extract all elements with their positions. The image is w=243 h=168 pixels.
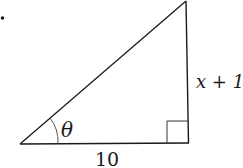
bullet-dot	[1, 16, 5, 20]
angle-label-theta: θ	[61, 118, 73, 142]
base-side	[20, 143, 189, 144]
base-label: 10	[95, 148, 119, 168]
angle-arc	[50, 118, 58, 144]
right-triangle-diagram: θ x + 1 10	[0, 0, 243, 168]
right-angle-marker	[167, 121, 188, 143]
vertical-side	[186, 1, 189, 143]
hypotenuse	[20, 1, 186, 144]
vertical-side-label: x + 1	[196, 71, 243, 92]
